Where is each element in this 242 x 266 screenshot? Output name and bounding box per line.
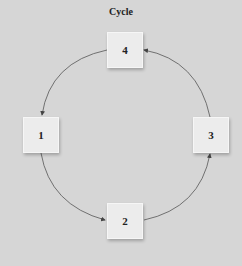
node-label: 1 xyxy=(38,129,44,141)
node-3: 3 xyxy=(193,117,229,153)
node-label: 2 xyxy=(122,215,128,227)
node-4: 4 xyxy=(107,32,143,68)
edge-4-to-1 xyxy=(42,50,107,115)
node-label: 4 xyxy=(122,44,128,56)
node-2: 2 xyxy=(107,203,143,239)
edge-3-to-4 xyxy=(144,50,210,117)
node-1: 1 xyxy=(23,117,59,153)
edge-1-to-2 xyxy=(41,153,105,220)
edge-2-to-3 xyxy=(144,154,210,220)
node-label: 3 xyxy=(208,129,214,141)
